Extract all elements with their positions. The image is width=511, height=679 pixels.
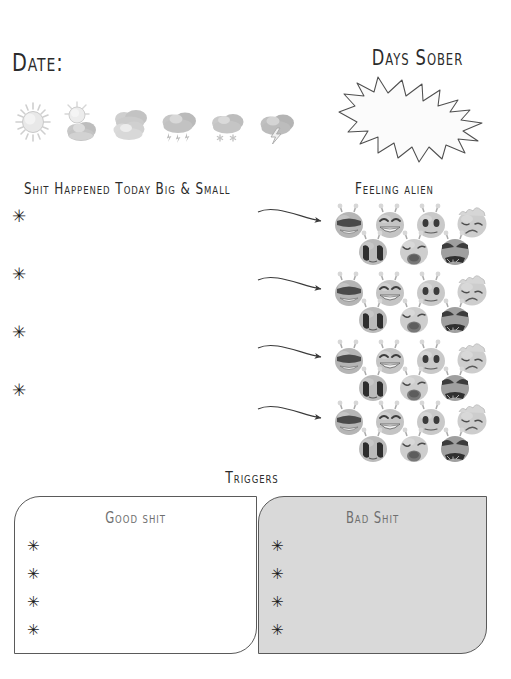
list-item-bullet: ✳ (12, 266, 26, 283)
alien-face-row-bottom (354, 366, 474, 404)
bad-shit-entry-4[interactable] (287, 621, 472, 641)
list-item-bullet: ✳ (271, 567, 284, 582)
alien-face-block (330, 203, 500, 265)
alien-angry-icon[interactable] (436, 366, 474, 404)
good-shit-entry-1[interactable] (43, 537, 243, 557)
alien-angry-icon[interactable] (436, 298, 474, 336)
days-sober-starburst[interactable] (330, 74, 505, 170)
feeling-alien-title: Feeling alien (355, 180, 434, 198)
worksheet-page: Date: (0, 0, 511, 679)
list-item-bullet: ✳ (12, 324, 26, 341)
good-shit-heading: Good shit (32, 509, 239, 527)
bad-shit-entry-2[interactable] (287, 565, 472, 585)
alien-crying-icon[interactable] (354, 230, 392, 268)
list-item-bullet: ✳ (271, 623, 284, 638)
alien-angry-icon[interactable] (436, 230, 474, 268)
good-shit-entry-4[interactable] (43, 621, 243, 641)
alien-sobbing-icon[interactable] (395, 366, 433, 404)
list-item-bullet: ✳ (12, 382, 26, 399)
alien-face-row-bottom (354, 427, 474, 465)
storm-icon[interactable] (255, 97, 302, 147)
bad-shit-box[interactable]: Bad Shit ✳ ✳ ✳ ✳ (258, 496, 487, 654)
bad-shit-entry-3[interactable] (287, 593, 472, 613)
alien-sobbing-icon[interactable] (395, 427, 433, 465)
alien-angry-icon[interactable] (436, 427, 474, 465)
list-item-bullet: ✳ (27, 623, 40, 638)
bad-shit-heading: Bad Shit (275, 509, 470, 527)
shit-happened-entry-2[interactable] (28, 264, 243, 286)
alien-crying-icon[interactable] (354, 427, 392, 465)
list-item-bullet: ✳ (27, 567, 40, 582)
shit-happened-title: Shit Happened Today Big & Small (24, 180, 231, 198)
list-item-bullet: ✳ (271, 595, 284, 610)
cloudy-icon[interactable] (108, 97, 155, 147)
list-item-bullet: ✳ (27, 539, 40, 554)
weather-icon-row (10, 97, 300, 147)
days-sober-title: Days Sober (342, 46, 493, 70)
alien-crying-icon[interactable] (354, 366, 392, 404)
alien-face-block (330, 271, 500, 333)
list-item-bullet: ✳ (12, 208, 26, 225)
shit-happened-entry-4[interactable] (28, 380, 243, 402)
alien-crying-icon[interactable] (354, 298, 392, 336)
good-shit-box[interactable]: Good shit ✳ ✳ ✳ ✳ (14, 496, 257, 654)
alien-sobbing-icon[interactable] (395, 298, 433, 336)
shit-happened-entry-1[interactable] (28, 206, 243, 228)
triggers-title: Triggers (200, 468, 303, 487)
connector-arrows (255, 195, 335, 429)
alien-sobbing-icon[interactable] (395, 230, 433, 268)
list-item-bullet: ✳ (27, 595, 40, 610)
alien-face-block (330, 400, 500, 462)
date-label: Date: (12, 48, 64, 77)
rain-icon[interactable] (157, 97, 204, 147)
days-sober-block: Days Sober (330, 46, 505, 166)
bad-shit-entry-1[interactable] (287, 537, 472, 557)
alien-face-row-bottom (354, 298, 474, 336)
good-shit-entry-2[interactable] (43, 565, 243, 585)
partly-cloudy-icon[interactable] (59, 97, 106, 147)
good-shit-entry-3[interactable] (43, 593, 243, 613)
shit-happened-entry-3[interactable] (28, 322, 243, 344)
list-item-bullet: ✳ (271, 539, 284, 554)
sun-icon[interactable] (10, 97, 57, 147)
alien-face-row-bottom (354, 230, 474, 268)
snow-icon[interactable] (206, 97, 253, 147)
alien-face-block (330, 339, 500, 401)
